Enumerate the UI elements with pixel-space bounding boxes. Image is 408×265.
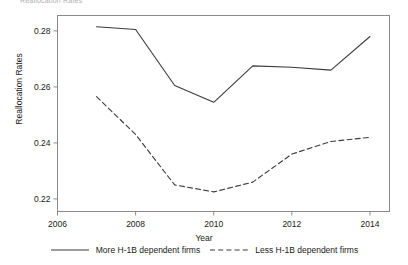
x-tick-label: 2014 [345, 219, 395, 229]
clipped-header-text: Reallocation Rates [20, 0, 160, 6]
x-tick-label: 2008 [111, 219, 161, 229]
y-tick-label: 0.26 [17, 82, 51, 92]
legend-label: More H-1B dependent firms [96, 245, 200, 255]
legend-entry: More H-1B dependent firms [50, 245, 200, 255]
x-tick-label: 2010 [189, 219, 239, 229]
x-axis-title: Year [0, 233, 408, 243]
dashed-line-icon [209, 246, 249, 254]
solid-line-icon [50, 246, 90, 254]
series-line [97, 27, 370, 103]
x-tick-label: 2012 [267, 219, 317, 229]
reallocation-rates-line-chart: Reallocation Rates Reallocation Rates Ye… [0, 0, 408, 265]
chart-legend: More H-1B dependent firmsLess H-1B depen… [0, 245, 408, 255]
series-line [97, 97, 370, 192]
y-tick-label: 0.28 [17, 26, 51, 36]
legend-entry: Less H-1B dependent firms [209, 245, 358, 255]
legend-label: Less H-1B dependent firms [255, 245, 358, 255]
y-tick-label: 0.22 [17, 194, 51, 204]
x-tick-label: 2006 [33, 219, 83, 229]
y-tick-label: 0.24 [17, 138, 51, 148]
plot-frame [58, 16, 390, 212]
